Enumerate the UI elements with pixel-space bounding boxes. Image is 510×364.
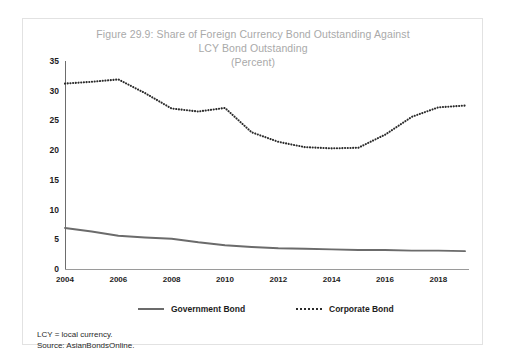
figure-card: Figure 29.9: Share of Foreign Currency B… (22, 18, 483, 345)
series-line-corporate-bond (65, 79, 465, 148)
plot-area (65, 61, 465, 269)
note-source: Source: AsianBondsOnline. (37, 340, 134, 351)
x-tick-label-2008: 2008 (163, 275, 181, 284)
legend-swatch-solid-icon (138, 308, 164, 310)
title-line-2: LCY Bond Outstanding (63, 41, 443, 55)
y-tick-label-5: 5 (33, 234, 59, 244)
legend-item-corporate-bond: Corporate Bond (296, 304, 394, 314)
x-tick-label-2006: 2006 (109, 275, 127, 284)
legend-item-government-bond: Government Bond (138, 304, 245, 314)
y-tick-label-25: 25 (33, 115, 59, 125)
title-line-1: Figure 29.9: Share of Foreign Currency B… (63, 27, 443, 41)
note-lcy: LCY = local currency. (37, 329, 134, 340)
series-lines (65, 61, 465, 269)
legend-label-government-bond: Government Bond (171, 304, 245, 314)
x-tick-label-2014: 2014 (323, 275, 341, 284)
x-tick-label-2010: 2010 (216, 275, 234, 284)
y-tick-label-10: 10 (33, 205, 59, 215)
y-tick-label-20: 20 (33, 145, 59, 155)
x-tick-label-2012: 2012 (269, 275, 287, 284)
series-line-government-bond (65, 228, 465, 251)
y-tick-label-35: 35 (33, 56, 59, 66)
y-tick-label-15: 15 (33, 175, 59, 185)
x-axis-ticks: 20042006200820102012201420162018 (65, 275, 469, 289)
y-tick-label-30: 30 (33, 86, 59, 96)
x-tick-label-2016: 2016 (376, 275, 394, 284)
figure-notes: LCY = local currency. Source: AsianBonds… (37, 329, 134, 351)
x-tick-label-2018: 2018 (429, 275, 447, 284)
y-axis-ticks: 05101520253035 (29, 61, 59, 270)
y-tick-label-0: 0 (33, 264, 59, 274)
legend-swatch-dotted-icon (296, 308, 322, 310)
x-axis-line (65, 269, 469, 270)
legend-label-corporate-bond: Corporate Bond (329, 304, 394, 314)
x-tick-label-2004: 2004 (56, 275, 74, 284)
chart-legend: Government Bond Corporate Bond (83, 304, 433, 320)
